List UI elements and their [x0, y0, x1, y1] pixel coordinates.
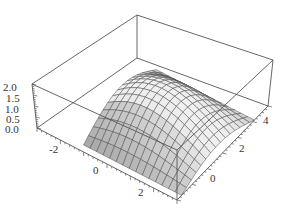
x-tick-label: -2 [49, 143, 58, 155]
tick-mark [250, 125, 252, 126]
tick-mark [32, 86, 34, 87]
tick-mark [183, 194, 185, 195]
tick-mark [213, 162, 215, 163]
tick-mark [195, 181, 197, 182]
tick-mark [34, 99, 36, 100]
tick-mark [238, 137, 242, 138]
tick-mark [36, 115, 38, 116]
tick-mark [180, 197, 182, 198]
tick-mark [210, 166, 212, 167]
tick-mark [265, 109, 267, 110]
tick-mark [34, 104, 36, 105]
tick-mark [235, 140, 237, 141]
tick-mark [198, 178, 200, 179]
tick-mark [192, 184, 196, 185]
tick-mark [36, 121, 38, 122]
tick-mark [262, 112, 264, 113]
tick-mark [204, 172, 206, 173]
tick-mark [259, 115, 261, 116]
tick-mark [35, 106, 39, 107]
tick-mark [35, 110, 37, 111]
tick-mark [268, 106, 272, 107]
tick-mark [34, 97, 36, 98]
y-tick-label: 4 [263, 114, 269, 126]
tick-mark [223, 153, 227, 154]
tick-mark [37, 128, 41, 129]
tick-mark [256, 119, 258, 120]
tick-mark [244, 131, 246, 132]
tick-mark [37, 126, 39, 127]
z-tick-label: 0.0 [5, 123, 19, 135]
tick-mark [229, 147, 231, 148]
tick-mark [253, 122, 257, 123]
tick-mark [35, 113, 37, 114]
tick-mark [247, 128, 249, 129]
tick-mark [33, 91, 35, 92]
tick-mark [189, 187, 191, 188]
surface-mesh [84, 70, 255, 196]
tick-mark [241, 134, 243, 135]
surface-plot-3d: 2.0 1.5 1.0 0.5 0.0 -2 0 2 0 2 4 [0, 0, 284, 210]
tick-mark [33, 93, 35, 94]
tick-mark [35, 108, 37, 109]
z-axis-labels: 2.0 1.5 1.0 0.5 0.0 [3, 81, 20, 135]
y-tick-label: 2 [239, 142, 245, 154]
tick-mark [201, 175, 203, 176]
tick-mark [226, 150, 228, 151]
tick-mark [219, 156, 221, 157]
y-tick-label: 0 [210, 172, 216, 184]
tick-mark [186, 191, 188, 192]
x-tick-label: 2 [138, 186, 144, 198]
tick-mark [207, 169, 211, 170]
tick-mark [216, 159, 218, 160]
tick-mark [177, 200, 181, 201]
tick-mark [32, 84, 36, 85]
x-tick-label: 0 [93, 164, 99, 176]
tick-mark [34, 102, 36, 103]
tick-mark [37, 124, 39, 125]
tick-mark [33, 88, 35, 89]
tick-mark [36, 119, 38, 120]
tick-mark [33, 95, 37, 96]
tick-mark [232, 144, 234, 145]
tick-mark [36, 117, 40, 118]
